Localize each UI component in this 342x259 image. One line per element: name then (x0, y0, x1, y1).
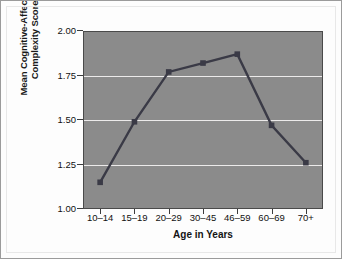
y-tick-mark (77, 30, 83, 31)
plot-area (83, 31, 323, 209)
gridline (84, 165, 322, 166)
y-tick-label: 1.50 (30, 114, 76, 125)
chart-figure: Mean Cognitive-Affective Complexity Scor… (0, 0, 342, 259)
y-tick-label: 2.00 (30, 25, 76, 36)
x-tick-mark (306, 209, 307, 214)
y-axis-title: Mean Cognitive-Affective Complexity Scor… (14, 0, 44, 130)
y-tick-label: 1.00 (30, 203, 76, 214)
x-tick-mark (203, 209, 204, 214)
y-tick-mark (77, 75, 83, 76)
y-tick-mark (77, 208, 83, 209)
x-tick-mark (237, 209, 238, 214)
y-tick-mark (77, 119, 83, 120)
y-tick-label: 1.75 (30, 70, 76, 81)
y-tick-label: 1.25 (30, 159, 76, 170)
y-axis-title-line-2: Complexity Score (29, 0, 41, 96)
gridline (84, 120, 322, 121)
x-tick-mark (134, 209, 135, 214)
y-tick-mark (77, 164, 83, 165)
x-tick-mark (169, 209, 170, 214)
x-tick-mark (272, 209, 273, 214)
gridline (84, 76, 322, 77)
x-axis-title: Age in Years (83, 229, 323, 240)
x-tick-mark (100, 209, 101, 214)
y-axis-title-line-1: Mean Cognitive-Affective (18, 0, 30, 96)
